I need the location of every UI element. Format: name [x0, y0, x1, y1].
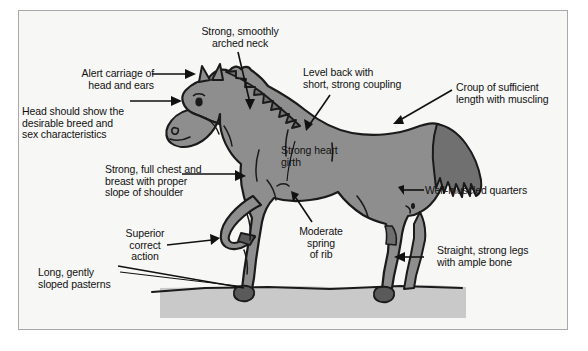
- label-croup: Croup of sufficient length with muscling: [456, 82, 586, 105]
- flank-mark: [411, 203, 415, 209]
- arrowhead-croup: [393, 115, 404, 124]
- ground-band: [160, 285, 466, 318]
- arrowhead-superior-action: [210, 234, 220, 245]
- label-well-muscled-quarters: Well-muscled quarters: [425, 185, 565, 197]
- horse-conformation-figure: Strong, smoothly arched neck Alert carri…: [0, 0, 588, 351]
- label-alert-carriage: Alert carriage of head and ears: [56, 68, 154, 91]
- hoof-hind-near: [374, 287, 394, 303]
- hind-cannon-marking: [385, 226, 396, 245]
- hind-leg-far: [404, 212, 425, 289]
- label-straight-legs: Straight, strong legs with ample bone: [437, 245, 567, 268]
- eye: [195, 98, 202, 107]
- label-superior-action: Superior correct action: [117, 228, 173, 263]
- label-head-breed: Head should show the desirable breed and…: [22, 106, 142, 141]
- leader-superior-action: [167, 240, 212, 245]
- label-sloped-pasterns: Long, gently sloped pasterns: [38, 267, 148, 290]
- label-chest-breast: Strong, full chest and breast with prope…: [105, 164, 235, 199]
- label-spring-of-rib: Moderate spring of rib: [286, 226, 356, 261]
- hoof-front-standing: [234, 286, 254, 302]
- arrowhead-head-breed: [171, 96, 182, 106]
- ear-left: [199, 66, 210, 82]
- arrowhead-alert-carriage: [185, 69, 196, 79]
- label-level-back: Level back with short, strong coupling: [303, 67, 443, 90]
- horse-illustration: [0, 0, 588, 351]
- label-arched-neck: Strong, smoothly arched neck: [172, 26, 308, 49]
- label-heart-girth: Strong heart girth: [281, 145, 371, 168]
- leader-croup: [400, 90, 452, 120]
